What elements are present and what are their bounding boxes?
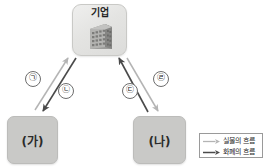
legend-item-money: 화폐의 흐름: [203, 147, 260, 157]
arrow-label-digeut: ㉢: [122, 83, 138, 99]
dark-gray-arrow-icon: [203, 148, 221, 157]
arrow-label-rieul: ㉣: [153, 71, 169, 87]
legend-item-goods: 실물의 흐름: [203, 136, 260, 146]
node-na-label: (나): [149, 132, 171, 149]
arrow-label-giyeok: ㉠: [25, 71, 41, 87]
legend: 실물의 흐름 화폐의 흐름: [199, 133, 263, 158]
legend-label-money: 화폐의 흐름: [223, 148, 255, 157]
node-firm[interactable]: 기업: [72, 4, 127, 56]
factory-building-icon: [84, 20, 116, 53]
circular-flow-diagram: 기업: [0, 0, 267, 168]
node-firm-label: 기업: [91, 7, 109, 19]
legend-label-goods: 실물의 흐름: [223, 137, 255, 146]
node-ga-label: (가): [22, 132, 44, 149]
light-gray-arrow-icon: [203, 137, 221, 146]
node-ga[interactable]: (가): [7, 116, 58, 164]
node-na[interactable]: (나): [133, 116, 186, 164]
arrow-label-nieun: ㉡: [58, 83, 74, 99]
